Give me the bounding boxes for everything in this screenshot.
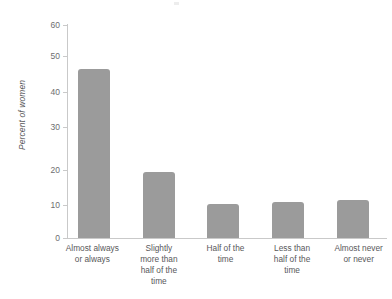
x-label-line: Slightly <box>127 243 192 254</box>
bars-layer <box>67 24 387 238</box>
y-tick-label-20: 20 <box>34 166 60 175</box>
x-label-line: half of the <box>260 254 325 265</box>
x-label-line: Almost always <box>60 243 125 254</box>
x-label-line: Half of the <box>193 243 258 254</box>
x-label-almost-always-or-always: Almost always or always <box>59 243 126 295</box>
y-tick-mark-0 <box>63 238 67 239</box>
y-tick-label-0: 0 <box>34 234 60 243</box>
x-label-line: or always <box>60 254 125 265</box>
y-tick-label-60: 60 <box>34 21 60 30</box>
x-label-line: Almost never <box>326 243 391 254</box>
y-tick-label-50: 50 <box>34 52 60 61</box>
y-axis-title: Percent of women <box>17 55 27 175</box>
bar-almost-always-or-always <box>78 69 110 238</box>
bar-half-of-the-time <box>207 204 239 238</box>
bar-slightly-more-than-half-of-the-time <box>143 172 175 238</box>
bar-almost-never-or-never <box>337 200 369 238</box>
bar-chart: Percent of women 60 50 40 30 20 10 0 Alm… <box>0 0 392 299</box>
bar-less-than-half-of-the-time <box>272 202 304 238</box>
x-label-line: time <box>127 276 192 287</box>
x-label-almost-never-or-never: Almost never or never <box>325 243 392 295</box>
x-axis-line <box>67 238 387 239</box>
y-tick-label-40: 40 <box>34 88 60 97</box>
y-tick-label-30: 30 <box>34 123 60 132</box>
x-label-line: or never <box>326 254 391 265</box>
x-label-slightly-more-than-half-of-the-time: Slightly more than half of the time <box>126 243 193 295</box>
x-label-half-of-the-time: Half of the time <box>192 243 259 295</box>
x-label-less-than-half-of-the-time: Less than half of the time <box>259 243 326 295</box>
y-tick-label-10: 10 <box>34 201 60 210</box>
x-label-line: time <box>260 265 325 276</box>
x-label-line: more than <box>127 254 192 265</box>
scan-artifact <box>174 2 179 5</box>
x-label-line: half of the <box>127 265 192 276</box>
x-axis-labels: Almost always or always Slightly more th… <box>59 243 392 295</box>
x-label-line: time <box>193 254 258 265</box>
x-label-line: Less than <box>260 243 325 254</box>
